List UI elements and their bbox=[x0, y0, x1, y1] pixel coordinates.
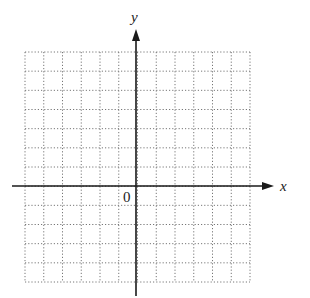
coordinate-plane: x y 0 bbox=[0, 0, 310, 298]
x-axis-arrow-icon bbox=[262, 182, 274, 190]
dotted-grid bbox=[25, 52, 250, 282]
origin-label: 0 bbox=[123, 189, 131, 205]
y-axis-arrow-icon bbox=[132, 29, 140, 41]
y-axis-label: y bbox=[129, 9, 138, 25]
x-axis-label: x bbox=[279, 178, 287, 194]
